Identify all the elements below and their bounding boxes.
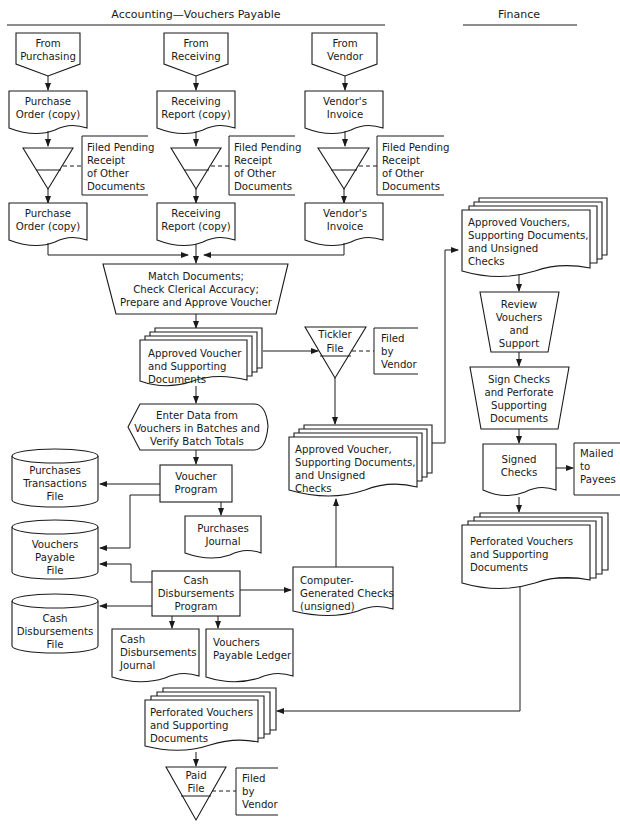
svg-text:File: File <box>46 565 63 576</box>
report-purchases-journal: Purchases Journal <box>185 516 261 558</box>
doc-approved-voucher-unsigned-checks: Approved Voucher, Supporting Documents, … <box>289 425 432 496</box>
svg-text:Receiving: Receiving <box>171 96 220 107</box>
svg-text:Documents: Documents <box>148 374 206 385</box>
report-cash-disbursements-journal: Cash Disbursements Journal <box>112 629 199 682</box>
svg-text:Documents: Documents <box>470 562 528 573</box>
disk-vouchers-payable-file: Vouchers Payable File <box>12 520 98 579</box>
svg-text:and Supporting: and Supporting <box>148 361 226 372</box>
svg-text:From: From <box>183 38 208 49</box>
svg-text:Program: Program <box>175 601 218 612</box>
process-sign-checks: Sign Checks and Perforate Supporting Doc… <box>470 367 569 429</box>
header-finance: Finance <box>463 8 577 25</box>
source-from-vendor: From Vendor <box>312 33 377 76</box>
svg-text:Journal: Journal <box>204 536 240 547</box>
svg-text:Vendor's: Vendor's <box>323 96 367 107</box>
svg-text:Supporting Documents,: Supporting Documents, <box>295 457 416 468</box>
svg-text:Purchasing: Purchasing <box>20 51 76 62</box>
svg-text:Vendor's: Vendor's <box>323 208 367 219</box>
file-tickler: Tickler File Filed by Vendor <box>305 327 418 378</box>
svg-text:Generated Checks: Generated Checks <box>300 588 394 599</box>
svg-text:Receiving: Receiving <box>171 51 220 62</box>
svg-text:Report (copy): Report (copy) <box>161 109 230 120</box>
svg-text:Checks: Checks <box>501 467 538 478</box>
svg-text:Order (copy): Order (copy) <box>16 109 80 120</box>
svg-text:Documents: Documents <box>490 413 548 424</box>
svg-text:Approved Voucher,: Approved Voucher, <box>295 444 392 455</box>
svg-text:Documents: Documents <box>87 181 145 192</box>
svg-text:Support: Support <box>499 338 539 349</box>
svg-text:Invoice: Invoice <box>327 221 363 232</box>
svg-text:Finance: Finance <box>498 8 540 21</box>
file-pending-purchasing: Filed Pending Receipt of Other Documents <box>23 136 154 195</box>
doc-purchase-order-copy-1: Purchase Order (copy) <box>9 91 87 134</box>
svg-text:Accounting—Vouchers Payable: Accounting—Vouchers Payable <box>111 8 281 21</box>
svg-text:Purchase: Purchase <box>25 96 71 107</box>
svg-text:Disbursements: Disbursements <box>17 626 94 637</box>
svg-text:(unsigned): (unsigned) <box>300 601 355 612</box>
process-voucher-program: Voucher Program <box>160 465 232 502</box>
svg-text:Check Clerical Accuracy;: Check Clerical Accuracy; <box>133 284 259 295</box>
doc-purchase-order-copy-2: Purchase Order (copy) <box>9 203 87 246</box>
svg-text:Invoice: Invoice <box>327 109 363 120</box>
svg-text:Filed: Filed <box>381 333 405 344</box>
disk-cash-disbursements-file: Cash Disbursements File <box>12 594 98 653</box>
svg-text:Program: Program <box>175 484 218 495</box>
svg-text:Receipt: Receipt <box>234 155 272 166</box>
svg-text:Signed: Signed <box>502 454 537 465</box>
doc-receiving-report-copy-1: Receiving Report (copy) <box>157 91 235 134</box>
process-enter-data: Enter Data from Vouchers in Batches and … <box>128 404 268 450</box>
svg-text:Match Documents;: Match Documents; <box>148 271 244 282</box>
svg-text:Purchase: Purchase <box>25 208 71 219</box>
svg-text:Enter Data from: Enter Data from <box>156 410 238 421</box>
svg-text:Filed: Filed <box>242 773 266 784</box>
doc-finance-approved-vouchers: Approved Vouchers, Supporting Documents,… <box>462 198 607 277</box>
doc-perforated-vouchers: Perforated Vouchers and Supporting Docum… <box>145 688 276 750</box>
disk-purchases-transactions-file: Purchases Transactions File <box>12 449 98 507</box>
svg-text:and Supporting: and Supporting <box>150 720 228 731</box>
svg-text:Approved Vouchers,: Approved Vouchers, <box>468 217 570 228</box>
svg-text:Documents: Documents <box>234 181 292 192</box>
svg-text:Perforated Vouchers: Perforated Vouchers <box>470 536 573 547</box>
svg-text:Receiving: Receiving <box>171 208 220 219</box>
svg-text:Purchases: Purchases <box>197 523 249 534</box>
svg-text:of Other: of Other <box>87 168 130 179</box>
doc-receiving-report-copy-2: Receiving Report (copy) <box>157 203 235 246</box>
svg-text:Mailed: Mailed <box>580 448 613 459</box>
svg-text:Purchases: Purchases <box>29 465 81 476</box>
svg-text:File: File <box>46 491 63 502</box>
svg-text:and Perforate: and Perforate <box>484 387 553 398</box>
svg-text:Receipt: Receipt <box>382 155 420 166</box>
svg-text:Checks: Checks <box>468 256 505 267</box>
svg-text:Disbursements: Disbursements <box>158 588 235 599</box>
svg-text:Vouchers: Vouchers <box>496 312 543 323</box>
svg-text:Supporting: Supporting <box>491 400 547 411</box>
svg-text:File: File <box>46 639 63 650</box>
process-review-vouchers: Review Vouchers and Support <box>480 292 559 352</box>
source-from-purchasing: From Purchasing <box>16 33 80 76</box>
svg-text:Vouchers in Batches and: Vouchers in Batches and <box>134 423 260 434</box>
svg-text:and: and <box>509 325 528 336</box>
svg-text:to: to <box>580 461 590 472</box>
svg-text:Filed Pending: Filed Pending <box>87 142 154 153</box>
svg-text:by: by <box>242 786 255 797</box>
svg-text:of Other: of Other <box>382 168 425 179</box>
doc-computer-generated-checks: Computer- Generated Checks (unsigned) <box>293 567 394 616</box>
process-match-documents: Match Documents; Check Clerical Accuracy… <box>103 264 288 314</box>
svg-text:of Other: of Other <box>234 168 277 179</box>
doc-vendors-invoice-1: Vendor's Invoice <box>305 91 383 134</box>
report-vouchers-payable-ledger: Vouchers Payable Ledger <box>206 629 293 682</box>
svg-text:Paid: Paid <box>185 770 206 781</box>
doc-finance-perforated-vouchers: Perforated Vouchers and Supporting Docum… <box>462 513 608 589</box>
svg-text:File: File <box>326 343 343 354</box>
svg-text:Journal: Journal <box>119 660 155 671</box>
doc-signed-checks: Signed Checks <box>483 444 556 496</box>
svg-text:Receipt: Receipt <box>87 155 125 166</box>
svg-text:Verify Batch Totals: Verify Batch Totals <box>150 436 244 447</box>
svg-text:Prepare and Approve Voucher: Prepare and Approve Voucher <box>120 297 273 308</box>
vouchers-payable-flowchart: Accounting—Vouchers Payable Finance From… <box>0 0 620 829</box>
svg-text:Approved Voucher: Approved Voucher <box>148 348 242 359</box>
svg-text:and Unsigned: and Unsigned <box>468 243 538 254</box>
svg-text:Supporting Documents,: Supporting Documents, <box>468 230 589 241</box>
svg-text:Checks: Checks <box>295 483 332 494</box>
svg-text:Perforated Vouchers: Perforated Vouchers <box>150 707 253 718</box>
